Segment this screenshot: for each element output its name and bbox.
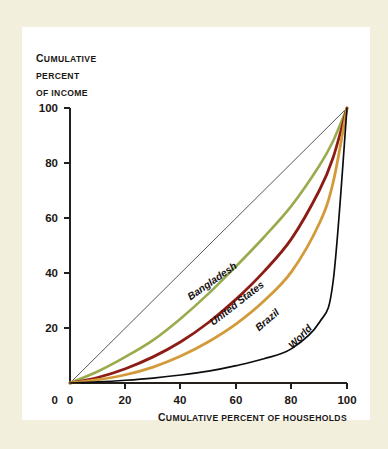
y-axis-tick-labels: 100 80 60 40 20 0	[39, 102, 58, 406]
x-axis-title: CUMULATIVE PERCENT OF HOUSEHOLDS	[158, 412, 347, 423]
svg-text:0: 0	[67, 394, 73, 406]
chart-page: CUMULATIVE PERCENT OF INCOME 100 80 60 4…	[0, 0, 388, 449]
series-label-brazil: Brazil	[253, 306, 281, 333]
svg-text:100: 100	[39, 102, 58, 114]
curve-group	[70, 108, 347, 383]
y-axis-title-line2: PERCENT	[36, 71, 80, 81]
x-axis-ticks	[125, 383, 347, 389]
svg-text:40: 40	[45, 267, 58, 279]
svg-text:60: 60	[45, 212, 58, 224]
svg-text:60: 60	[230, 394, 243, 406]
series-label-bangladesh: Bangladesh	[185, 260, 239, 302]
svg-text:80: 80	[285, 394, 298, 406]
lorenz-curve-chart: CUMULATIVE PERCENT OF INCOME 100 80 60 4…	[0, 0, 388, 449]
y-axis-title-line3: OF INCOME	[36, 88, 88, 98]
y-axis-ticks	[64, 108, 70, 328]
svg-text:100: 100	[337, 394, 356, 406]
svg-text:40: 40	[174, 394, 187, 406]
svg-text:0: 0	[52, 394, 58, 406]
x-axis-tick-labels: 0 20 40 60 80 100	[67, 394, 357, 406]
svg-text:80: 80	[45, 157, 58, 169]
series-label-world: World	[286, 322, 314, 351]
svg-text:20: 20	[45, 322, 58, 334]
y-axis-title-line1: CUMULATIVE	[36, 53, 97, 64]
svg-text:20: 20	[119, 394, 132, 406]
curve-label-group: BangladeshUnited StatesBrazilWorld	[185, 260, 314, 351]
